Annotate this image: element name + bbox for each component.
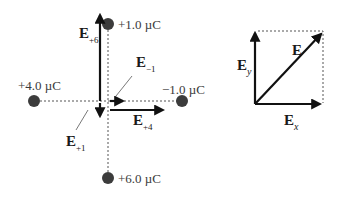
electric-field-diagram: +1.0 µC +4.0 µC −1.0 µC +6.0 µC E+6 E−1 … xyxy=(0,0,341,198)
e-resultant-arrow xyxy=(255,34,321,104)
charge-bottom xyxy=(102,172,114,184)
e-minus1-leader xyxy=(116,76,132,96)
e-minus1-label: E−1 xyxy=(136,54,156,74)
e-plus1-leader xyxy=(76,110,88,130)
e-plus4-label: E+4 xyxy=(133,112,153,132)
charge-left-label: +4.0 µC xyxy=(18,78,61,93)
charge-right-label: −1.0 µC xyxy=(162,82,205,97)
e-resultant-label: E xyxy=(292,42,302,58)
charge-top-label: +1.0 µC xyxy=(118,17,161,32)
e-y-label: Ey xyxy=(237,57,252,77)
charge-left xyxy=(28,95,40,107)
charge-top xyxy=(102,18,114,30)
charge-bottom-label: +6.0 µC xyxy=(118,171,161,186)
e-plus1-label: E+1 xyxy=(66,133,86,153)
e-x-label: Ex xyxy=(284,112,299,132)
e-plus6-label: E+6 xyxy=(79,25,99,45)
